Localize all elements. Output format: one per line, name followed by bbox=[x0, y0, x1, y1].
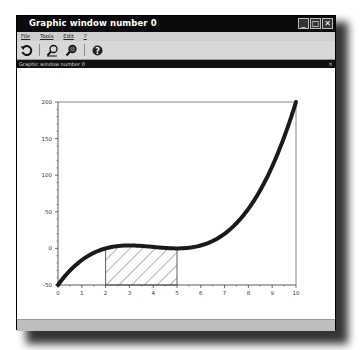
status-bar bbox=[17, 319, 335, 331]
title-bar[interactable]: Graphic window number 0 _ □ ✕ bbox=[17, 16, 335, 32]
toolbar: ? bbox=[17, 41, 335, 60]
y-tick-label: 0 bbox=[49, 245, 53, 251]
x-tick-label: 5 bbox=[175, 290, 179, 296]
plot-area[interactable]: 012345678910-50050100150200 bbox=[17, 68, 335, 319]
y-tick-label: 100 bbox=[42, 172, 53, 178]
y-tick-label: 50 bbox=[45, 209, 52, 215]
minimize-button[interactable]: _ bbox=[298, 18, 309, 29]
x-tick-label: 8 bbox=[247, 290, 251, 296]
graphic-window: Graphic window number 0 _ □ ✕ File Tools… bbox=[16, 15, 336, 330]
menu-tools[interactable]: Tools bbox=[40, 32, 54, 41]
zoom-in-button[interactable] bbox=[46, 44, 59, 57]
maximize-button[interactable]: □ bbox=[310, 18, 321, 29]
help-icon: ? bbox=[91, 44, 104, 57]
menu-help[interactable]: ? bbox=[84, 32, 87, 41]
x-tick-label: 10 bbox=[293, 290, 300, 296]
y-tick-label: 200 bbox=[42, 99, 53, 105]
menu-bar: File Tools Edit ? bbox=[17, 32, 335, 41]
rotate-icon bbox=[20, 44, 33, 57]
chart: 012345678910-50050100150200 bbox=[17, 68, 335, 319]
zoom-in-icon bbox=[46, 44, 59, 57]
rotate-button[interactable] bbox=[20, 44, 33, 57]
window-title: Graphic window number 0 bbox=[29, 18, 157, 28]
zoom-out-button[interactable] bbox=[65, 44, 78, 57]
menu-edit[interactable]: Edit bbox=[63, 32, 74, 41]
x-tick-label: 2 bbox=[104, 290, 108, 296]
graphic-subtitle: Graphic window number 0 bbox=[19, 61, 85, 67]
x-tick-label: 4 bbox=[151, 290, 155, 296]
toolbar-separator bbox=[84, 44, 85, 56]
toolbar-separator bbox=[39, 44, 40, 56]
x-tick-label: 6 bbox=[199, 290, 203, 296]
graphic-subtitle-bar: Graphic window number 0 × bbox=[17, 60, 335, 68]
x-tick-label: 7 bbox=[223, 290, 227, 296]
y-tick-label: -50 bbox=[43, 282, 52, 288]
zoom-out-icon bbox=[65, 44, 78, 57]
shaded-area bbox=[106, 245, 177, 285]
x-tick-label: 1 bbox=[80, 290, 84, 296]
close-button[interactable]: ✕ bbox=[322, 18, 333, 29]
x-tick-label: 3 bbox=[128, 290, 132, 296]
x-tick-label: 9 bbox=[270, 290, 274, 296]
y-tick-label: 150 bbox=[42, 136, 53, 142]
menu-file[interactable]: File bbox=[21, 32, 30, 41]
help-button[interactable]: ? bbox=[91, 44, 104, 57]
subwindow-close-button[interactable]: × bbox=[328, 60, 333, 67]
x-tick-label: 0 bbox=[56, 290, 60, 296]
svg-text:?: ? bbox=[95, 46, 100, 55]
